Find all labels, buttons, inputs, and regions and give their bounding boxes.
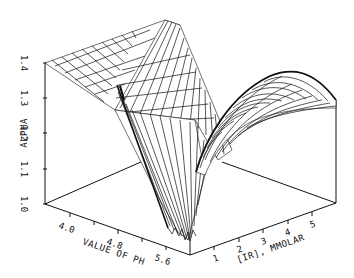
x-axis-labels: 4.0 4.8 5.6 VALUE OF PH — [57, 220, 172, 267]
y-tick-5: 5 — [308, 219, 316, 230]
z-axis-labels: 1.4 1.3 1.2 1.1 1.0 ALPHA — [19, 55, 29, 212]
z-tick-1.3: 1.3 — [19, 90, 29, 106]
x-tick-5.6: 5.6 — [153, 252, 172, 267]
z-tick-1.1: 1.1 — [19, 161, 29, 177]
z-tick-1.0: 1.0 — [19, 196, 29, 212]
z-axis-title: ALPHA — [19, 118, 29, 148]
y-tick-1: 1 — [211, 253, 219, 264]
z-tick-1.4: 1.4 — [19, 55, 29, 71]
x-tick-4.0: 4.0 — [57, 220, 76, 235]
surface-plot: 1.4 1.3 1.2 1.1 1.0 ALPHA 4.0 4.8 5.6 VA… — [0, 0, 354, 278]
y-axis-title: [IR], MMOLAR — [235, 232, 305, 265]
